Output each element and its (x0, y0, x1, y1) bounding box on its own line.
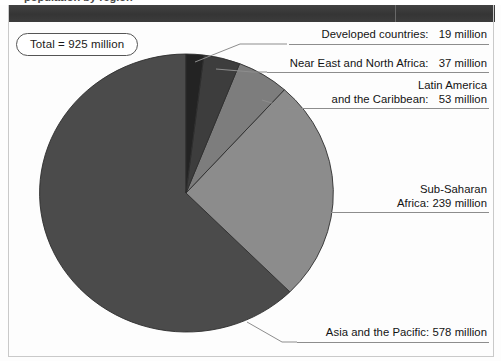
callout-underline-latin-america (293, 108, 489, 109)
leader-line-asia-and-the-pacific (247, 322, 297, 342)
callout-near-east-name: Near East and North Africa: (290, 57, 429, 69)
callout-underline-sub-saharan (331, 212, 489, 213)
chart-page: population by region Total = 925 million… (0, 0, 501, 361)
callout-developed-countries-value: 19 million (439, 28, 487, 42)
callout-near-east-value: 37 million (439, 57, 487, 71)
callout-developed-countries-name: Developed countries: (321, 28, 428, 40)
callout-underline-asia (297, 342, 489, 343)
callout-latin-america-value: 53 million (439, 93, 487, 107)
pie-chart (0, 0, 501, 361)
callout-underline-developed (289, 44, 489, 45)
callout-latin-america-line1: Latin America (332, 79, 487, 93)
callout-latin-america-and-the-caribbean: Latin America and the Caribbean: 53 mill… (332, 79, 487, 106)
callout-sub-saharan-line1: Sub-Saharan (397, 183, 487, 197)
callout-underline-near-east (267, 72, 489, 73)
callout-latin-america-line2: and the Caribbean: (332, 93, 429, 105)
callout-developed-countries: Developed countries: 19 million (321, 28, 487, 42)
callout-sub-saharan-line2: Africa: 239 million (397, 197, 487, 211)
callout-sub-saharan-africa: Sub-Saharan Africa: 239 million (397, 183, 487, 210)
callout-latin-america-line2-wrap: and the Caribbean: 53 million (332, 93, 487, 107)
callout-near-east-and-north-africa: Near East and North Africa: 37 million (290, 57, 487, 71)
callout-asia-and-the-pacific: Asia and the Pacific: 578 million (326, 326, 487, 340)
